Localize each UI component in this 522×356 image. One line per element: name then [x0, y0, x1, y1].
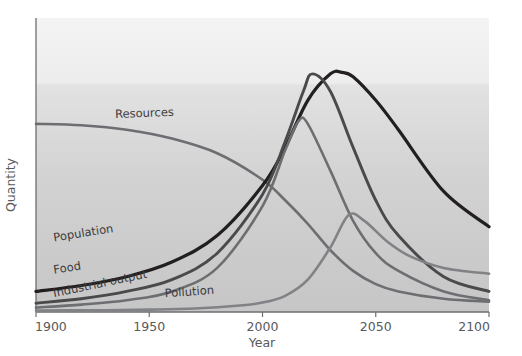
x-axis-title: Year [248, 335, 276, 350]
chart-container: 19001950200020502100 ResourcesPopulation… [0, 0, 522, 356]
limits-to-growth-line-chart: 19001950200020502100 ResourcesPopulation… [0, 0, 522, 356]
series-label-resources: Resources [115, 105, 174, 121]
x-tick-label-2050: 2050 [360, 319, 392, 334]
plot-background [36, 18, 489, 312]
y-axis-title: Quantity [3, 157, 18, 212]
x-axis-tick-labels: 19001950200020502100 [35, 319, 490, 334]
x-tick-label-2000: 2000 [247, 319, 279, 334]
x-axis-ticks [36, 312, 489, 317]
x-tick-label-2100: 2100 [458, 319, 490, 334]
x-tick-label-1900: 1900 [35, 319, 67, 334]
x-tick-label-1950: 1950 [133, 319, 165, 334]
